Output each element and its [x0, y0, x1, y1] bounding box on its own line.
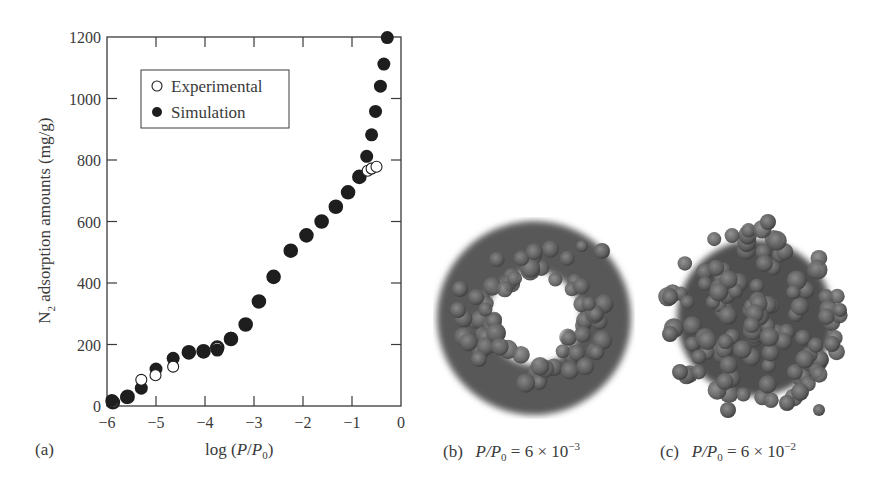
panel-c-ratio: P/P	[692, 442, 718, 461]
n2-molecule	[750, 279, 764, 293]
simulation-point	[374, 80, 387, 93]
n2-molecule	[719, 306, 737, 324]
x-axis-label: log (P/P0)	[205, 440, 273, 461]
n2-molecule	[698, 331, 717, 350]
legend-label: Simulation	[171, 103, 246, 122]
y-tick-label: 1200	[69, 29, 101, 46]
n2-molecule	[556, 344, 570, 358]
x-label-p: P	[237, 440, 247, 459]
n2-molecule	[512, 346, 530, 364]
y-tick-label: 600	[77, 214, 101, 231]
x-tick-label: −4	[196, 414, 213, 431]
simulation-point	[369, 105, 382, 118]
n2-molecule	[743, 317, 759, 333]
simulation-point	[360, 150, 373, 163]
n2-molecule-free	[813, 404, 825, 416]
y-tick-label: 400	[77, 275, 101, 292]
n2-molecule	[725, 228, 740, 243]
n2-molecule	[709, 283, 728, 302]
x-label-pre: log (	[205, 440, 237, 459]
panel-c-value: = 6 × 10	[723, 442, 785, 461]
x-tick-label: −3	[245, 414, 262, 431]
experimental-point	[122, 391, 134, 403]
x-tick-label: −2	[294, 414, 311, 431]
experimental-point	[330, 201, 342, 213]
experimental-point	[342, 186, 354, 198]
experimental-point	[285, 245, 297, 257]
simulation-point	[377, 58, 390, 71]
n2-molecule	[478, 302, 492, 316]
legend-filled-circle-icon	[152, 107, 162, 117]
n2-molecule	[795, 350, 814, 369]
n2-molecule-free	[576, 240, 588, 252]
experimental-point	[253, 295, 265, 307]
experimental-point	[240, 319, 252, 331]
n2-molecule-free	[662, 289, 678, 305]
n2-molecule	[830, 289, 845, 304]
n2-molecule	[459, 333, 477, 351]
n2-molecule-free	[791, 383, 809, 401]
n2-molecule	[808, 260, 828, 280]
figure-canvas: −6−5−4−3−2−10020040060080010001200 Exper…	[0, 0, 887, 492]
n2-molecule-free	[452, 281, 468, 297]
n2-molecule	[708, 260, 724, 276]
panel-c-label: (c)	[660, 442, 679, 461]
n2-molecule	[716, 373, 733, 390]
y-tick-label: 1000	[69, 91, 101, 108]
n2-molecule	[718, 334, 733, 349]
n2-molecule	[507, 271, 522, 286]
experimental-point	[198, 345, 210, 357]
n2-molecule	[542, 240, 559, 257]
panel-c-exp: −2	[784, 440, 796, 452]
y-label-n: N	[35, 312, 54, 324]
n2-molecule	[760, 327, 779, 346]
n2-molecule	[759, 375, 777, 393]
n2-molecule	[561, 361, 579, 379]
experimental-point	[371, 161, 382, 172]
molecule-render-c	[658, 214, 847, 418]
n2-molecule	[489, 252, 504, 267]
n2-molecule	[573, 278, 590, 295]
x-tick-label: −5	[147, 414, 164, 431]
panel-b-value: = 6 × 10	[507, 442, 569, 461]
n2-molecule	[736, 387, 750, 401]
y-label-sub: 2	[45, 306, 57, 312]
y-label-rest: adsorption amounts (mg/g)	[35, 118, 54, 306]
panel-b-label: (b)	[443, 442, 463, 461]
n2-molecule	[582, 297, 596, 311]
x-tick-label: 0	[397, 414, 405, 431]
n2-molecule-free	[833, 303, 847, 317]
n2-molecule-free	[824, 336, 840, 352]
experimental-point	[168, 361, 179, 372]
panel-c-caption: (c) P/P0 = 6 × 10−2	[660, 440, 796, 463]
experimental-point	[211, 342, 223, 354]
simulation-point	[365, 128, 378, 141]
n2-molecule	[589, 345, 604, 360]
n2-molecule-free	[594, 243, 610, 259]
panel-a-label: (a)	[35, 440, 54, 460]
n2-molecule	[811, 366, 828, 383]
legend-label: Experimental	[171, 77, 263, 96]
n2-molecule	[491, 338, 509, 356]
x-tick-label: −1	[343, 414, 360, 431]
n2-molecule	[516, 373, 535, 392]
n2-molecule	[678, 256, 693, 271]
legend-open-circle-icon	[152, 81, 162, 91]
n2-molecule	[560, 251, 575, 266]
pore-center	[512, 294, 564, 346]
experimental-point	[150, 370, 161, 381]
x-tick-label: −6	[98, 414, 115, 431]
panel-b-exp: −3	[568, 440, 580, 452]
n2-molecule-free	[760, 214, 776, 230]
x-label-p0: P	[252, 440, 262, 459]
n2-molecule-free	[471, 351, 487, 367]
experimental-point	[107, 396, 119, 408]
x-label-post: )	[268, 440, 274, 459]
n2-molecule	[763, 392, 778, 407]
simulation-point	[381, 31, 394, 44]
n2-molecule	[808, 338, 823, 353]
experimental-point	[268, 271, 280, 283]
n2-molecule	[818, 308, 835, 325]
y-tick-label: 0	[93, 398, 101, 415]
legend: ExperimentalSimulation	[141, 70, 289, 128]
